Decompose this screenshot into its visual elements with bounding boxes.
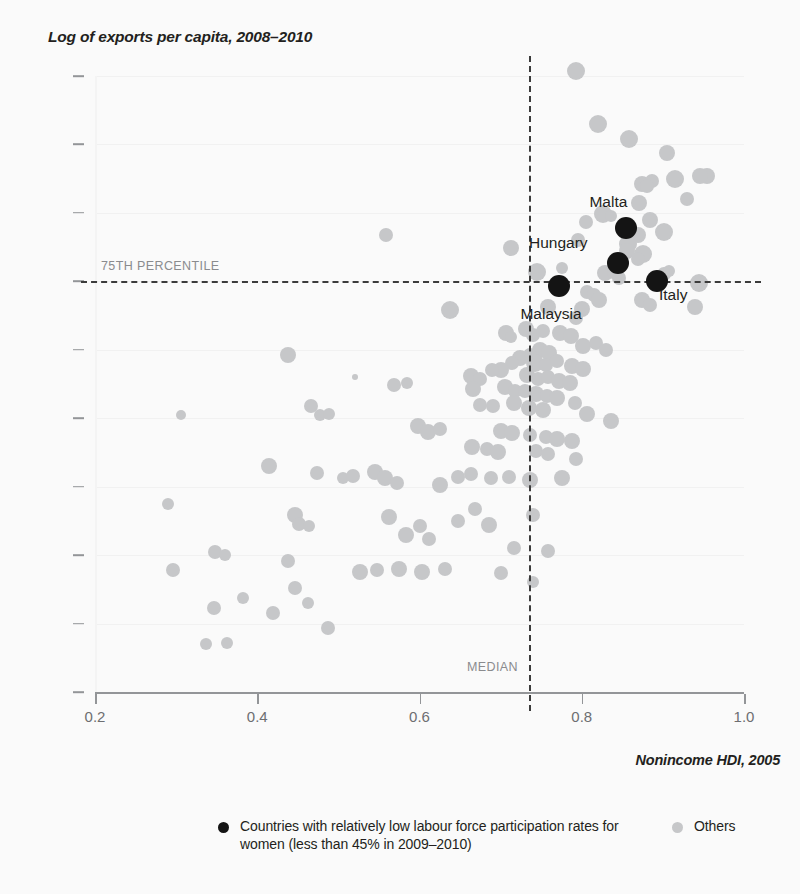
scatter-point-other[interactable] [280, 347, 296, 363]
scatter-point-other[interactable] [631, 195, 647, 211]
scatter-point-other[interactable] [569, 452, 583, 466]
scatter-point-other[interactable] [486, 399, 500, 413]
scatter-point-other[interactable] [381, 509, 397, 525]
scatter-point-other[interactable] [536, 324, 550, 338]
scatter-point-other[interactable] [504, 425, 520, 441]
scatter-point-other[interactable] [433, 422, 447, 436]
scatter-point-other[interactable] [589, 115, 607, 133]
scatter-point-other[interactable] [549, 390, 565, 406]
scatter-point-other[interactable] [438, 562, 452, 576]
scatter-point-other[interactable] [505, 331, 517, 343]
scatter-point-other[interactable] [200, 638, 212, 650]
y-tick-mark [73, 212, 84, 214]
legend-item-others[interactable]: Others [672, 818, 792, 836]
scatter-point-other[interactable] [413, 519, 427, 533]
scatter-point-other[interactable] [575, 361, 591, 377]
scatter-point-other[interactable] [451, 514, 465, 528]
scatter-point-other[interactable] [640, 179, 654, 193]
legend-item-low-female-lfp[interactable]: Countries with relatively low labour for… [218, 818, 638, 853]
scatter-point-other[interactable] [550, 354, 564, 368]
scatter-point-other[interactable] [506, 395, 522, 411]
scatter-point-other[interactable] [465, 381, 481, 397]
scatter-point-other[interactable] [631, 252, 645, 266]
scatter-point-other[interactable] [484, 471, 498, 485]
scatter-point-other[interactable] [473, 398, 487, 412]
scatter-point-other[interactable] [692, 168, 708, 184]
scatter-point-other[interactable] [281, 554, 295, 568]
scatter-point-other[interactable] [370, 563, 384, 577]
scatter-point-other[interactable] [451, 470, 465, 484]
scatter-point-other[interactable] [379, 228, 393, 242]
scatter-point-other[interactable] [468, 502, 482, 516]
scatter-point-other[interactable] [494, 566, 508, 580]
scatter-point-other[interactable] [346, 469, 360, 483]
scatter-point-other[interactable] [502, 470, 516, 484]
scatter-point-other[interactable] [390, 476, 404, 490]
scatter-point-other[interactable] [507, 541, 521, 555]
scatter-point-other[interactable] [401, 377, 413, 389]
scatter-point-highlight-malaysia[interactable] [548, 275, 570, 297]
scatter-point-other[interactable] [620, 130, 638, 148]
scatter-point-other[interactable] [464, 467, 478, 481]
scatter-point-other[interactable] [541, 544, 555, 558]
scatter-point-other[interactable] [655, 223, 673, 241]
scatter-point-other[interactable] [391, 561, 407, 577]
reference-label-median: MEDIAN [467, 660, 518, 674]
scatter-point-other[interactable] [642, 212, 658, 228]
scatter-point-other[interactable] [591, 292, 607, 308]
y-gridline [95, 555, 744, 556]
scatter-point-other[interactable] [266, 606, 280, 620]
scatter-point-other[interactable] [219, 549, 231, 561]
scatter-point-other[interactable] [680, 192, 694, 206]
scatter-point-other[interactable] [579, 406, 595, 422]
scatter-point-other[interactable] [352, 564, 368, 580]
scatter-point-other[interactable] [422, 532, 436, 546]
scatter-point-other[interactable] [302, 597, 314, 609]
scatter-point-other[interactable] [556, 262, 568, 274]
scatter-point-other[interactable] [562, 375, 578, 391]
scatter-point-other[interactable] [567, 62, 585, 80]
scatter-point-other[interactable] [503, 240, 519, 256]
scatter-point-other[interactable] [549, 431, 565, 447]
scatter-point-other[interactable] [481, 517, 497, 533]
scatter-point-other[interactable] [599, 343, 613, 357]
x-tick-mark [95, 694, 97, 704]
scatter-point-highlight-malta[interactable] [615, 217, 637, 239]
scatter-point-other[interactable] [432, 477, 448, 493]
scatter-point-other[interactable] [605, 210, 617, 222]
scatter-point-other[interactable] [387, 378, 401, 392]
scatter-point-other[interactable] [303, 520, 315, 532]
scatter-point-other[interactable] [176, 410, 186, 420]
scatter-point-other[interactable] [464, 439, 480, 455]
scatter-point-other[interactable] [535, 402, 551, 418]
scatter-point-other[interactable] [162, 498, 174, 510]
scatter-point-other[interactable] [261, 458, 277, 474]
scatter-point-other[interactable] [288, 581, 302, 595]
scatter-point-other[interactable] [541, 447, 555, 461]
scatter-point-other[interactable] [321, 621, 335, 635]
scatter-point-other[interactable] [603, 413, 619, 429]
point-label-malaysia: Malaysia [520, 305, 581, 323]
legend-label: Countries with relatively low labour for… [240, 818, 638, 853]
scatter-point-other[interactable] [659, 145, 675, 161]
scatter-point-other[interactable] [398, 527, 414, 543]
scatter-point-other[interactable] [237, 592, 249, 604]
scatter-point-other[interactable] [687, 299, 703, 315]
scatter-point-other[interactable] [310, 466, 324, 480]
scatter-point-other[interactable] [221, 637, 233, 649]
y-gridline [95, 144, 744, 145]
scatter-point-other[interactable] [323, 408, 335, 420]
scatter-point-other[interactable] [207, 601, 221, 615]
scatter-point-other[interactable] [441, 301, 459, 319]
scatter-point-other[interactable] [666, 170, 684, 188]
scatter-point-other[interactable] [352, 374, 358, 380]
scatter-point-other[interactable] [166, 563, 180, 577]
x-tick-mark [582, 694, 584, 704]
scatter-point-other[interactable] [643, 298, 657, 312]
scatter-point-other[interactable] [579, 215, 593, 229]
scatter-point-other[interactable] [414, 564, 430, 580]
scatter-point-other[interactable] [564, 433, 580, 449]
scatter-point-other[interactable] [490, 444, 506, 460]
scatter-point-other[interactable] [554, 470, 570, 486]
scatter-point-highlight-hungary[interactable] [607, 252, 629, 274]
